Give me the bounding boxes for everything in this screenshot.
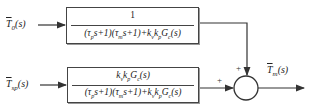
bottom-block-fraction-line (72, 85, 194, 86)
top-plus-sign: + (236, 63, 241, 73)
output-label: Tm(s) (267, 64, 288, 78)
setpoint-transfer-block: kvkpGc(s) (τps+1)(τms+1)+kvkpGc(s) (67, 67, 199, 103)
top-block-numerator: 1 (67, 10, 198, 20)
bottom-block-numerator: kvkpGc(s) (68, 70, 198, 82)
top-block-fraction-line (71, 25, 194, 26)
disturbance-input-label: T0(s) (6, 18, 26, 32)
bottom-block-denominator: (τps+1)(τms+1)+kvkpGc(s) (68, 87, 198, 99)
disturbance-transfer-block: 1 (τps+1)(τms+1)+kvkpGc(s) (66, 7, 199, 44)
left-plus-sign: + (217, 75, 222, 85)
setpoint-input-label: Tsp(s) (6, 78, 28, 92)
summing-junction (234, 76, 258, 100)
top-block-denominator: (τps+1)(τms+1)+kvkpGc(s) (67, 28, 198, 40)
